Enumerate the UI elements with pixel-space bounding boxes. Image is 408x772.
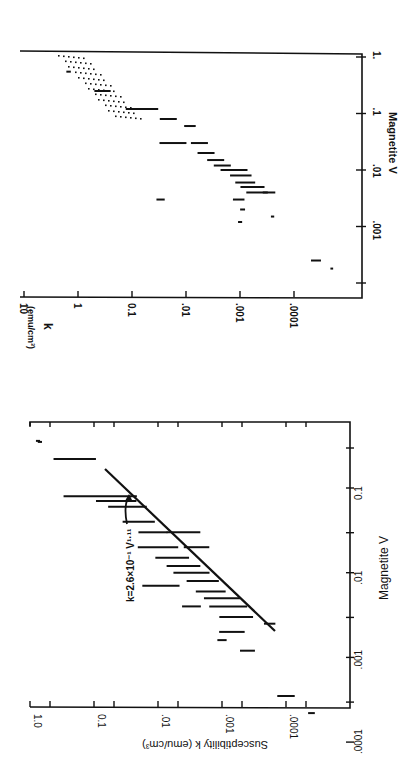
stipple-dot [128, 112, 130, 114]
stipple-dot [78, 77, 80, 79]
stipple-dot [78, 67, 80, 69]
stipple-dot [85, 83, 87, 85]
stipple-dot [108, 100, 110, 102]
stipple-dot [70, 61, 72, 63]
stipple-dot [125, 117, 127, 119]
stipple-dot [133, 113, 135, 115]
left-plot-ticks [30, 422, 354, 742]
stipple-dot [118, 101, 120, 103]
stipple-dot [90, 63, 92, 65]
stipple-dot [80, 62, 82, 64]
v-tick-label: 1. [371, 51, 382, 60]
k-tick-label: .001 [224, 714, 235, 734]
stipple-dot [75, 72, 77, 74]
stipple-dot [80, 72, 82, 74]
stipple-dot [120, 96, 122, 98]
stipple-dot [113, 111, 115, 113]
stipple-dot [95, 94, 97, 96]
v-tick-label: .001 [371, 221, 382, 241]
right-plot-v-tick-labels: .001.01.11. [371, 51, 382, 240]
k-tick-label: .0001 [288, 303, 299, 328]
stipple-dot [65, 61, 67, 63]
stipple-dot [58, 55, 60, 57]
stipple-dot [105, 85, 107, 87]
stipple-dot [83, 78, 85, 80]
figure: 1010.1.01.001.0001 .001.01.11. k (emu/cm… [0, 0, 408, 772]
stipple-dot [108, 110, 110, 112]
stipple-dot [88, 88, 90, 90]
stipple-dot [73, 57, 75, 59]
right-plot-k-label: k [41, 323, 55, 330]
left-plot-k-tick-labels: 1.00.1.01.001.0001 [32, 714, 299, 739]
stipple-dot [115, 116, 117, 118]
fit-equation-annotation: k=2.6×10⁻¹ V¹·¹¹ [125, 528, 136, 602]
stipple-dot [120, 106, 122, 108]
stipple-dot [115, 96, 117, 98]
k-tick-label: 1 [72, 303, 83, 309]
stipple-dot [115, 106, 117, 108]
stipple-dot [140, 118, 142, 120]
stipple-dot [85, 63, 87, 65]
v-tick-label: 0.1 [353, 486, 364, 500]
stipple-dot [83, 58, 85, 60]
stipple-dot [68, 66, 70, 68]
stipple-dot [95, 74, 97, 76]
k-tick-label: .0001 [288, 714, 299, 739]
k-tick-label: 0.1 [126, 303, 137, 317]
v-tick-label: .1 [371, 108, 382, 117]
v-tick-label: .01 [371, 164, 382, 178]
v-tick-label: .001 [353, 649, 364, 669]
right-plot: 1010.1.01.001.0001 .001.01.11. k (emu/cm… [18, 51, 399, 349]
stipple-dot [93, 79, 95, 81]
left-plot-v-tick-labels: .0001.001.010.1 [353, 486, 364, 754]
stipple-dot [100, 94, 102, 96]
stipple-dot [113, 91, 115, 93]
stipple-dot [88, 68, 90, 70]
stipple-dot [110, 95, 112, 97]
right-plot-k-tick-labels: 1010.1.01.001.0001 [18, 303, 299, 328]
stipple-dot [90, 83, 92, 85]
v-tick-label: .0001 [353, 729, 364, 754]
right-plot-v-axis-label: Magnetite V [387, 112, 399, 174]
left-plot-data-bars [36, 441, 315, 713]
k-tick-label: 0.1 [96, 714, 107, 728]
stipple-dot [93, 69, 95, 71]
stipple-dot [130, 117, 132, 119]
stipple-dot [75, 62, 77, 64]
v-tick-label: .01 [353, 570, 364, 584]
left-plot-k-axis-label: Susceptibility k (emu/cm³) [142, 739, 268, 751]
stipple-dot [73, 67, 75, 69]
stipple-dot [118, 111, 120, 113]
stipple-dot [105, 105, 107, 107]
left-plot-v-axis-label: Magnetite V [377, 536, 391, 600]
stipple-dot [125, 107, 127, 109]
stipple-dot [93, 89, 95, 91]
stipple-dot [78, 57, 80, 59]
stipple-dot [135, 118, 137, 120]
k-tick-label: .001 [234, 303, 245, 323]
stipple-dot [95, 84, 97, 86]
k-tick-label: .01 [160, 714, 171, 728]
stipple-dot [103, 80, 105, 82]
stipple-dot [85, 73, 87, 75]
stipple-dot [103, 100, 105, 102]
stipple-dot [123, 112, 125, 114]
stipple-dot [110, 85, 112, 87]
right-plot-data-bars [66, 72, 333, 269]
stipple-dot [98, 79, 100, 81]
stipple-dot [100, 84, 102, 86]
stipple-dot [98, 99, 100, 101]
stipple-dot [100, 74, 102, 76]
right-plot-frame [20, 51, 362, 298]
stipple-dot [63, 56, 65, 58]
stipple-dot [123, 102, 125, 104]
left-plot: k=2.6×10⁻¹ V¹·¹¹ 1.00.1.01.001.0001 .000… [30, 422, 391, 754]
stipple-dot [113, 101, 115, 103]
k-tick-label: .01 [180, 303, 191, 317]
stipple-dot [83, 68, 85, 70]
k-tick-label: 1.0 [32, 714, 43, 728]
stipple-dot [90, 73, 92, 75]
stipple-dot [110, 105, 112, 107]
stipple-dot [120, 116, 122, 118]
stipple-dot [88, 78, 90, 80]
